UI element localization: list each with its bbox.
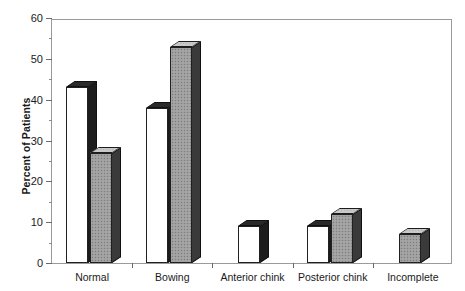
bar-side-face	[421, 228, 430, 263]
x-tick	[212, 263, 213, 268]
y-tick-label: 60	[31, 12, 43, 24]
bar-front-face	[307, 226, 329, 263]
y-tick-label: 0	[37, 257, 43, 269]
bar-side-face	[192, 41, 201, 263]
bar-group: Anterior chink	[212, 20, 292, 263]
bar-front-face	[146, 108, 168, 263]
y-tick-label: 30	[31, 135, 43, 147]
bar-front-face	[66, 87, 88, 263]
x-tick-label: Posterior chink	[298, 271, 367, 283]
y-tick-label: 40	[31, 94, 43, 106]
bar-front-face	[170, 47, 192, 263]
x-tick-label: Anterior chink	[220, 271, 284, 283]
y-tick-label: 50	[31, 53, 43, 65]
bar-front-face	[238, 226, 260, 263]
bar-grey	[170, 47, 192, 263]
x-tick-label: Bowing	[155, 271, 189, 283]
bar-side-face	[353, 208, 362, 263]
bar-grey	[331, 214, 353, 263]
y-tick-label: 10	[31, 216, 43, 228]
bar-white	[66, 87, 88, 263]
x-tick	[293, 263, 294, 268]
bar-group: Normal	[52, 20, 132, 263]
y-tick-major	[46, 263, 52, 264]
bar-white	[307, 226, 329, 263]
x-tick-label: Incomplete	[387, 271, 438, 283]
bar-group: Bowing	[132, 20, 212, 263]
x-tick	[373, 263, 374, 268]
bar-chart-figure: Percent of Patients 0102030405060 Normal…	[0, 0, 465, 291]
bar-front-face	[399, 234, 421, 263]
bar-group: Posterior chink	[293, 20, 373, 263]
bar-front-face	[90, 153, 112, 263]
bar-side-face	[112, 147, 121, 263]
x-tick-label: Normal	[75, 271, 109, 283]
plot-area: 0102030405060 NormalBowingAnterior chink…	[51, 19, 452, 264]
y-tick-major	[46, 18, 52, 19]
x-tick	[132, 263, 133, 268]
bar-grey	[399, 234, 421, 263]
bar-white	[146, 108, 168, 263]
bar-group: Incomplete	[373, 20, 453, 263]
y-tick-label: 20	[31, 175, 43, 187]
bar-side-face	[260, 220, 269, 263]
bar-front-face	[331, 214, 353, 263]
bar-grey	[90, 153, 112, 263]
bar-white	[238, 226, 260, 263]
